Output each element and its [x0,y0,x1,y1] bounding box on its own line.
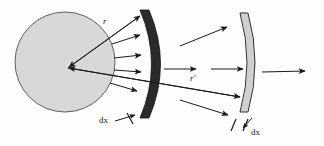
ray-inner-4 [110,83,137,91]
dx-right-tick-a [231,119,236,131]
inner-absorbing-shell [140,10,161,118]
optics-ray-diagram-figure: r r' dx dx [0,0,324,146]
ray-outer-exit [262,71,305,72]
dx-left-tick-a [127,113,133,124]
ray-inner-1 [112,35,140,44]
label-radius-r: r [103,17,107,26]
ray-inner-2 [114,55,141,58]
ray-mid-upper-diagonal [180,27,227,46]
dx-left-pointer [115,115,135,121]
label-radius-r-prime: r' [190,74,195,83]
diagram-canvas [0,0,324,146]
outer-absorbing-shell [240,13,255,112]
label-dx-left: dx [99,116,108,125]
label-dx-right: dx [251,128,260,137]
source-sphere [15,12,115,112]
ray-mid-lower-diagonal [180,100,228,115]
ray-inner-3 [114,70,141,72]
